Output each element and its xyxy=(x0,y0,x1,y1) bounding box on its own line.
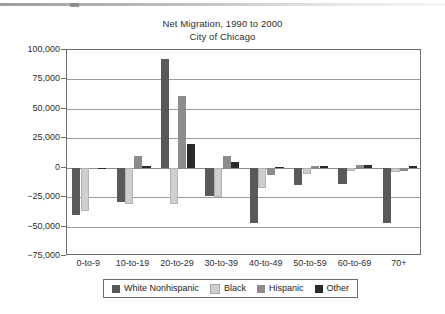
bar xyxy=(89,168,97,170)
bar xyxy=(125,168,133,204)
bar-group-40-to-49 xyxy=(245,50,289,254)
x-axis-label-60-to-69: 60-to-69 xyxy=(332,258,376,269)
legend-item[interactable]: White Nonhispanic xyxy=(112,284,199,293)
y-axis-label: 25,000 xyxy=(0,133,60,142)
chart-title-line-2: City of Chicago xyxy=(0,31,445,44)
bar-group-20-to-29 xyxy=(156,50,200,254)
net-migration-bar-chart: Net Migration, 1990 to 2000 City of Chic… xyxy=(0,0,445,314)
y-axis-label: 75,000 xyxy=(0,74,60,83)
bar-group-30-to-39 xyxy=(200,50,244,254)
bar-group-0-to-9 xyxy=(67,50,111,254)
bar xyxy=(400,168,408,172)
legend-label: Hispanic xyxy=(269,284,304,293)
bar xyxy=(294,168,302,186)
y-axis-label: −25,000 xyxy=(0,192,60,201)
bar xyxy=(303,168,311,174)
y-axis-label: 50,000 xyxy=(0,104,60,113)
bar xyxy=(72,168,80,215)
y-axis-label: −75,000 xyxy=(0,251,60,260)
legend-item[interactable]: Other xyxy=(315,284,350,293)
bar xyxy=(347,168,355,172)
bar xyxy=(81,168,89,212)
y-axis-label: 0 xyxy=(0,163,60,172)
legend-label: Other xyxy=(327,284,350,293)
chart-title-line-1: Net Migration, 1990 to 2000 xyxy=(163,18,283,29)
legend-swatch-icon xyxy=(210,284,220,294)
bar-group-50-to-59 xyxy=(289,50,333,254)
bar xyxy=(338,168,346,184)
bar xyxy=(161,59,169,167)
legend-label: Black xyxy=(224,284,246,293)
bar xyxy=(391,168,399,173)
y-axis-label: 100,000 xyxy=(0,45,60,54)
bar xyxy=(383,168,391,223)
chart-legend: White NonhispanicBlackHispanicOther xyxy=(103,279,358,298)
bar xyxy=(214,168,222,197)
bar xyxy=(267,168,275,175)
bar xyxy=(409,166,417,168)
y-axis-label: −50,000 xyxy=(0,222,60,231)
bar xyxy=(187,144,195,168)
bar xyxy=(231,162,239,168)
bar-group-70+ xyxy=(378,50,422,254)
legend-swatch-icon xyxy=(112,285,120,293)
x-axis-label-50-to-59: 50-to-59 xyxy=(288,258,332,269)
bar xyxy=(134,156,142,168)
bar xyxy=(311,166,319,168)
bar xyxy=(258,168,266,188)
x-axis-label-10-to-19: 10-to-19 xyxy=(110,258,154,269)
y-tick--75000 xyxy=(61,255,66,256)
bar-group-10-to-19 xyxy=(111,50,155,254)
legend-swatch-icon xyxy=(315,285,323,293)
plot-area xyxy=(66,49,421,255)
bar xyxy=(98,168,106,169)
x-axis-label-0-to-9: 0-to-9 xyxy=(66,258,110,269)
chart-title: Net Migration, 1990 to 2000 City of Chic… xyxy=(0,18,445,43)
x-axis-label-40-to-49: 40-to-49 xyxy=(244,258,288,269)
x-axis-label-20-to-29: 20-to-29 xyxy=(155,258,199,269)
legend-swatch-icon xyxy=(257,285,265,293)
bar xyxy=(170,168,178,204)
bar xyxy=(117,168,125,202)
legend-item[interactable]: Black xyxy=(210,284,246,294)
legend-item[interactable]: Hispanic xyxy=(257,284,304,293)
x-axis-label-30-to-39: 30-to-39 xyxy=(199,258,243,269)
bar-group-60-to-69 xyxy=(333,50,377,254)
x-axis-label-70+: 70+ xyxy=(377,258,421,269)
bar xyxy=(250,168,258,223)
bar xyxy=(320,166,328,168)
bar xyxy=(178,96,186,168)
bar xyxy=(205,168,213,196)
bar xyxy=(275,167,283,168)
bar xyxy=(356,165,364,167)
bar xyxy=(142,166,150,168)
bar xyxy=(223,156,231,168)
bar xyxy=(364,165,372,168)
legend-label: White Nonhispanic xyxy=(124,284,199,293)
